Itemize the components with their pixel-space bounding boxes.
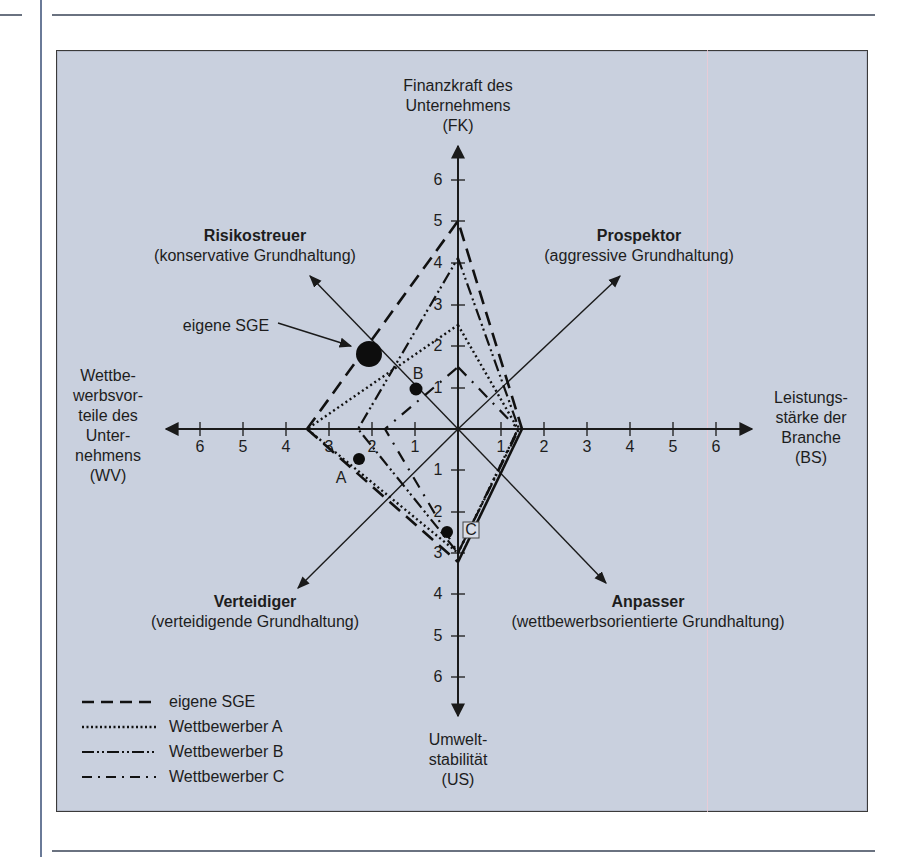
- label-point-c: C: [463, 520, 479, 540]
- quadrant-verteidiger: Verteidiger (verteidigende Grundhaltung): [130, 592, 380, 632]
- point-eigene-sge: [356, 341, 382, 367]
- legend-dashed-line-icon: [82, 699, 156, 705]
- label-point-b: B: [410, 364, 426, 384]
- tick-bs-2: 2: [536, 437, 552, 457]
- quadrant-subtitle: (konservative Grundhaltung): [135, 246, 375, 266]
- tick-wv-3: 3: [321, 437, 337, 457]
- axis-title-fk: Finanzkraft desUnternehmens(FK): [378, 76, 538, 136]
- tick-wv-2: 2: [364, 437, 380, 457]
- tick-us-2: 2: [430, 502, 446, 522]
- axis-title-wv: Wettbe-werbsvor-teile des Unter-nehmens(…: [60, 366, 156, 486]
- tick-fk-5: 5: [430, 211, 446, 231]
- legend-label: eigene SGE: [169, 693, 255, 711]
- point-c: [441, 526, 453, 538]
- tick-us-1: 1: [430, 460, 446, 480]
- quadrant-title: Risikostreuer: [204, 227, 306, 244]
- quadrant-prospektor: Prospektor (aggressive Grundhaltung): [514, 226, 764, 266]
- quadrant-risikostreuer: Risikostreuer (konservative Grundhaltung…: [135, 226, 375, 266]
- tick-fk-4: 4: [430, 253, 446, 273]
- legend-item-eigene-sge: eigene SGE: [82, 692, 255, 712]
- tick-bs-6: 6: [708, 437, 724, 457]
- quadrant-anpasser: Anpasser (wettbewerbsorientierte Grundha…: [468, 592, 828, 632]
- quadrant-title: Prospektor: [597, 227, 681, 244]
- tick-bs-3: 3: [579, 437, 595, 457]
- legend-item-wettbewerber-b: Wettbewerber B: [82, 742, 283, 762]
- profile-eigene-sge-solid: [458, 429, 522, 562]
- tick-wv-1: 1: [407, 437, 423, 457]
- legend-item-wettbewerber-c: Wettbewerber C: [82, 767, 284, 787]
- quadrant-subtitle: (wettbewerbsorientierte Grundhaltung): [468, 612, 828, 632]
- legend-dash-dot-line-icon: [82, 774, 156, 780]
- quadrant-subtitle: (aggressive Grundhaltung): [514, 246, 764, 266]
- tick-bs-5: 5: [665, 437, 681, 457]
- quadrant-title: Verteidiger: [214, 593, 297, 610]
- tick-bs-1: 1: [493, 437, 509, 457]
- quadrant-subtitle: (verteidigende Grundhaltung): [130, 612, 380, 632]
- tick-fk-1: 1: [430, 378, 446, 398]
- tick-wv-5: 5: [235, 437, 251, 457]
- legend-label: Wettbewerber C: [169, 768, 284, 786]
- tick-wv-6: 6: [192, 437, 208, 457]
- label-point-a: A: [333, 468, 349, 488]
- legend-item-wettbewerber-a: Wettbewerber A: [82, 717, 283, 737]
- quadrant-title: Anpasser: [612, 593, 685, 610]
- legend-dash-dot-dot-line-icon: [82, 749, 156, 755]
- tick-us-4: 4: [430, 584, 446, 604]
- legend-label: Wettbewerber B: [169, 743, 283, 761]
- legend-dotted-line-icon: [82, 724, 156, 730]
- tick-us-3: 3: [430, 543, 446, 563]
- tick-us-6: 6: [430, 667, 446, 687]
- tick-fk-3: 3: [430, 295, 446, 315]
- own-sbu-pointer: [278, 323, 351, 346]
- legend-label: Wettbewerber A: [169, 718, 283, 736]
- axis-title-us: Umwelt-stabilität(US): [400, 730, 516, 790]
- tick-bs-4: 4: [622, 437, 638, 457]
- tick-wv-4: 4: [278, 437, 294, 457]
- tick-us-5: 5: [430, 626, 446, 646]
- label-eigene-sge: eigene SGE: [176, 316, 276, 336]
- point-b: [410, 383, 423, 396]
- tick-fk-6: 6: [430, 170, 446, 190]
- tick-fk-2: 2: [430, 336, 446, 356]
- axis-title-bs: Leistungs-stärke derBranche(BS): [756, 388, 866, 468]
